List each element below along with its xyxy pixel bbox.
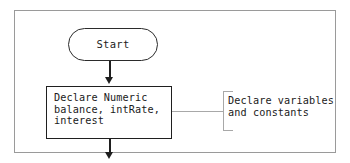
flowchart-figure: Start Declare Numeric balance, intRate, … <box>0 0 350 163</box>
flowchart-node-start: Start <box>68 28 158 61</box>
annotation-leader-line <box>172 111 223 112</box>
annotation-bracket-bottom <box>223 130 233 131</box>
flowchart-node-declare-label: Declare Numeric balance, intRate, intere… <box>54 92 160 127</box>
annotation-declare-note-label: Declare variables and constants <box>228 95 334 119</box>
connector-start-to-declare-arrowhead <box>105 77 113 84</box>
annotation-declare-note: Declare variables and constants <box>223 91 335 131</box>
annotation-bracket-vertical <box>223 91 224 131</box>
flowchart-node-start-label: Start <box>96 39 129 50</box>
figure-frame: Start Declare Numeric balance, intRate, … <box>14 10 336 153</box>
flowchart-node-declare: Declare Numeric balance, intRate, intere… <box>46 86 172 139</box>
connector-declare-to-next-arrowhead <box>105 152 113 159</box>
annotation-bracket-top <box>223 91 233 92</box>
